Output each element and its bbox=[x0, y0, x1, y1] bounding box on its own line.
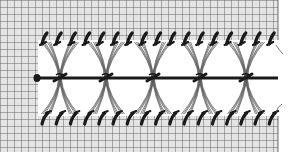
embroidery-illustration bbox=[0, 0, 291, 152]
fabric-grid bbox=[0, 0, 278, 152]
fabric-top bbox=[0, 0, 278, 40]
center-thread bbox=[34, 74, 279, 82]
hemstitch-diagram bbox=[0, 0, 291, 152]
